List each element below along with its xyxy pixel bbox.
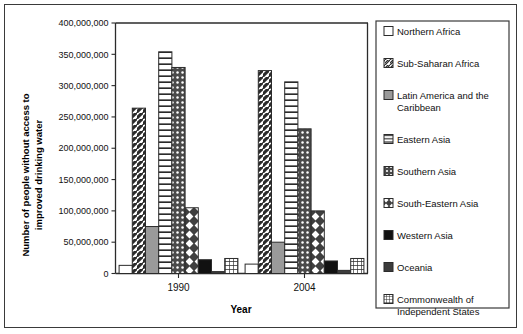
legend-swatch[interactable] bbox=[384, 91, 393, 100]
legend-label: Eastern Asia bbox=[397, 134, 451, 145]
legend-label: Commonwealth of bbox=[397, 294, 474, 305]
bar[interactable] bbox=[225, 258, 238, 273]
bar-group bbox=[245, 71, 364, 274]
bar[interactable] bbox=[132, 108, 145, 273]
y-axis-tick-label: 200,000,000 bbox=[58, 143, 108, 153]
legend-label-continued: Caribbean bbox=[397, 102, 441, 113]
bar[interactable] bbox=[272, 242, 285, 273]
legend-label: Sub-Saharan Africa bbox=[397, 58, 480, 69]
bar-group bbox=[119, 52, 238, 274]
bar[interactable] bbox=[338, 270, 351, 273]
y-axis-tick-label: 250,000,000 bbox=[58, 112, 108, 122]
y-axis-tick-label: 0 bbox=[103, 269, 108, 279]
legend-swatch[interactable] bbox=[384, 295, 393, 304]
x-axis-category-label: 2004 bbox=[293, 282, 316, 293]
y-axis-tick-label: 100,000,000 bbox=[58, 206, 108, 216]
legend: Northern AfricaSub-Saharan AfricaLatin A… bbox=[376, 21, 509, 317]
y-axis-tick-label: 300,000,000 bbox=[58, 81, 108, 91]
bar[interactable] bbox=[212, 272, 225, 274]
legend-swatch[interactable] bbox=[384, 59, 393, 68]
legend-label: Northern Africa bbox=[397, 26, 461, 37]
legend-swatch[interactable] bbox=[384, 167, 393, 176]
y-axis-title: Number of people without access to impro… bbox=[20, 93, 44, 256]
x-axis-category-label: 1990 bbox=[167, 282, 190, 293]
bar[interactable] bbox=[258, 71, 271, 274]
legend-label: Oceania bbox=[397, 262, 433, 273]
figure-frame: Number of people without access to impro… bbox=[4, 4, 517, 328]
y-axis-tick-label: 150,000,000 bbox=[58, 175, 108, 185]
y-axis-title-line1: Number of people without access to bbox=[20, 93, 31, 256]
bar[interactable] bbox=[146, 227, 159, 274]
legend-label: Latin America and the bbox=[397, 90, 489, 101]
legend-swatch[interactable] bbox=[384, 263, 393, 272]
bar[interactable] bbox=[324, 261, 337, 274]
bar-chart: Number of people without access to impro… bbox=[5, 5, 514, 325]
bar[interactable] bbox=[285, 82, 298, 274]
legend-swatch[interactable] bbox=[384, 199, 393, 208]
legend-swatch[interactable] bbox=[384, 27, 393, 36]
x-axis-title: Year bbox=[230, 304, 251, 315]
bar[interactable] bbox=[185, 208, 198, 274]
y-axis-tick-label: 350,000,000 bbox=[58, 50, 108, 60]
bar[interactable] bbox=[119, 265, 132, 273]
y-axis-tick-label: 50,000,000 bbox=[63, 237, 108, 247]
legend-label: Southern Asia bbox=[397, 166, 457, 177]
bar[interactable] bbox=[298, 129, 311, 274]
legend-swatch[interactable] bbox=[384, 135, 393, 144]
bar[interactable] bbox=[311, 211, 324, 274]
bar[interactable] bbox=[245, 264, 258, 273]
y-axis-ticks: 050,000,000100,000,000150,000,000200,000… bbox=[58, 18, 115, 279]
x-axis-category-labels: 19902004 bbox=[167, 274, 316, 293]
legend-label: South-Eastern Asia bbox=[397, 198, 479, 209]
legend-label: Western Asia bbox=[397, 230, 454, 241]
y-axis-title-line2: improved drinking water bbox=[33, 120, 44, 231]
bar[interactable] bbox=[172, 67, 185, 273]
bar-group-container bbox=[119, 52, 364, 274]
legend-swatch[interactable] bbox=[384, 231, 393, 240]
bar[interactable] bbox=[351, 258, 364, 273]
y-axis-tick-label: 400,000,000 bbox=[58, 18, 108, 28]
legend-label-continued: Independent States bbox=[397, 306, 480, 317]
bar[interactable] bbox=[159, 52, 172, 274]
bar[interactable] bbox=[198, 260, 211, 274]
